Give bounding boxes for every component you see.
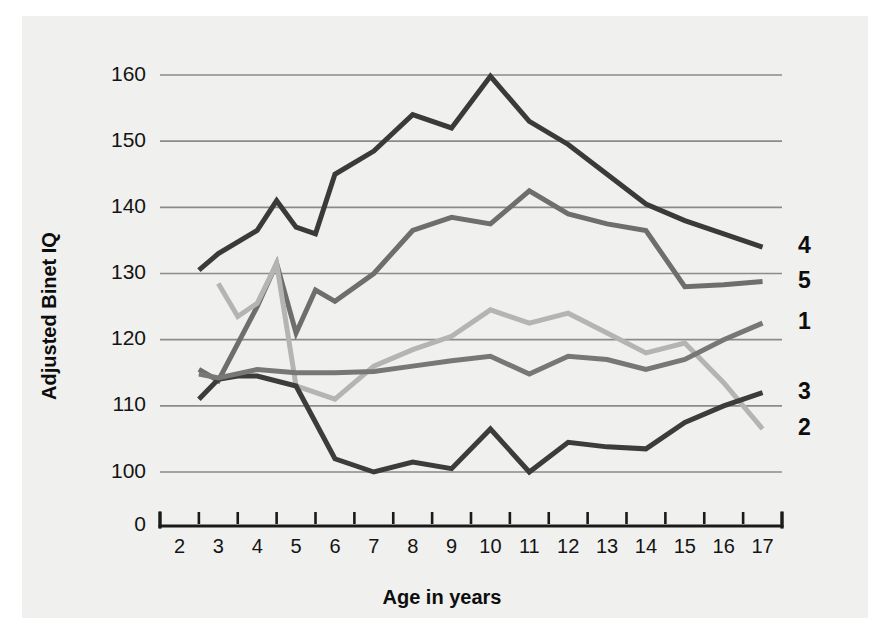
y-tick-label: 160 [111,62,146,85]
y-axis-zero-label: 0 [134,512,146,535]
x-tick-label: 9 [446,535,457,557]
x-tick-label: 6 [329,535,340,557]
x-tick-label: 17 [751,535,773,557]
x-tick-label: 14 [635,535,657,557]
y-axis-title: Adjusted Binet IQ [38,232,60,400]
x-tick-label: 8 [407,535,418,557]
x-axis-tick-labels: 234567891011121314151617 [174,535,774,557]
y-tick-label: 110 [113,392,146,415]
series-end-label-5: 5 [798,267,811,293]
x-tick-label: 5 [291,535,302,557]
y-tick-label: 130 [111,260,146,283]
series-end-label-1: 1 [798,308,811,334]
chart-plate: 1001101201301401501600 23456789101112131… [22,16,868,618]
x-tick-label: 13 [596,535,618,557]
x-tick-label: 16 [713,535,735,557]
x-tick-label: 4 [252,535,263,557]
series-line-3 [199,376,763,472]
series-end-label-3: 3 [798,378,811,404]
chart-page: 1001101201301401501600 23456789101112131… [0,0,890,639]
series-line-4 [199,76,763,270]
series-line-5 [199,323,763,378]
x-tick-label: 7 [368,535,379,557]
gridlines-group [160,75,782,472]
y-tick-label: 140 [111,194,146,217]
axes-group [160,512,782,527]
series-end-label-4: 4 [798,232,811,258]
series-end-labels-group: 45132 [798,232,811,440]
x-tick-label: 11 [519,535,540,557]
x-tick-label: 12 [557,535,579,557]
y-axis-tick-labels: 1001101201301401501600 [111,62,146,535]
x-tick-label: 10 [479,535,501,557]
y-tick-label: 150 [111,128,146,151]
series-line-2 [218,264,762,429]
x-tick-label: 2 [174,535,185,557]
y-tick-label: 120 [111,326,146,349]
x-axis-title: Age in years [383,586,502,608]
line-chart: 1001101201301401501600 23456789101112131… [22,16,868,618]
y-tick-label: 100 [111,459,146,482]
series-end-label-2: 2 [798,414,811,440]
x-tick-label: 15 [674,535,696,557]
x-tick-label: 3 [213,535,224,557]
